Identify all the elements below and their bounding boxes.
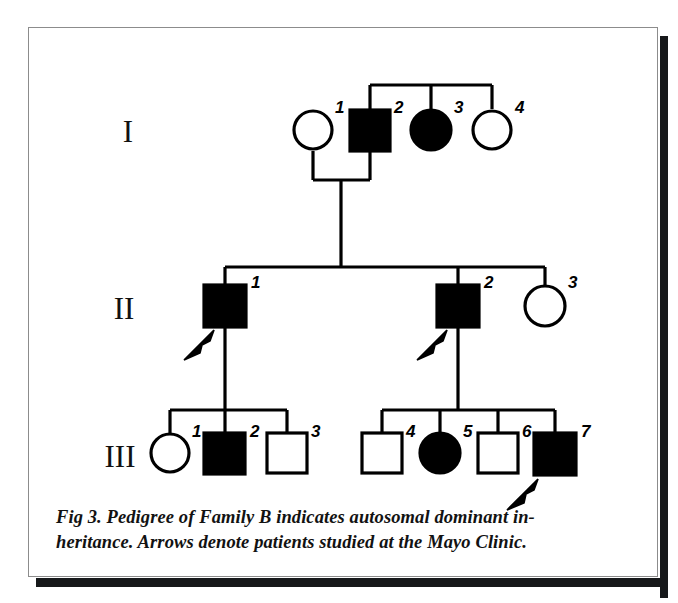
pedigree-diagram: I II III <box>28 27 658 577</box>
individual-number-II-2: 2 <box>483 273 494 292</box>
individual-number-III-4: 4 <box>405 422 416 441</box>
individual-symbol-I-3[interactable] <box>411 110 451 150</box>
generation-label-3: III <box>105 439 136 474</box>
individual-number-I-1: 1 <box>335 98 344 117</box>
figure-drop-shadow-bottom <box>36 578 668 587</box>
individual-number-III-7: 7 <box>581 422 592 441</box>
individual-number-III-1: 1 <box>192 422 201 441</box>
individual-number-I-3: 3 <box>454 98 464 117</box>
individual-number-I-4: 4 <box>514 98 525 117</box>
individual-symbol-I-1[interactable] <box>294 111 332 149</box>
individual-symbol-III-4[interactable] <box>362 433 402 473</box>
figure-caption: Fig 3. Pedigree of Family B indicates au… <box>56 505 626 555</box>
individual-number-I-2: 2 <box>393 98 404 117</box>
generation-label-1: I <box>123 114 133 149</box>
individual-symbol-III-7[interactable] <box>534 433 576 475</box>
generation-2-symbols: 1 2 3 <box>184 273 578 360</box>
individual-symbol-III-2[interactable] <box>204 433 245 474</box>
figure-drop-shadow-right <box>660 36 668 598</box>
generation-1-symbols: 1 2 3 4 <box>294 98 525 151</box>
individual-number-III-2: 2 <box>249 422 260 441</box>
individual-symbol-II-3[interactable] <box>525 286 565 326</box>
individual-symbol-III-5[interactable] <box>420 433 460 473</box>
individual-symbol-II-1[interactable] <box>204 285 246 327</box>
individual-number-III-3: 3 <box>311 422 321 441</box>
generation-3-symbols: 1 2 3 4 5 6 7 <box>151 422 592 510</box>
figure-root: I II III <box>0 0 678 603</box>
figure-caption-line-1: Fig 3. Pedigree of Family B indicates au… <box>56 505 626 530</box>
proband-arrow-icon-II-2 <box>417 330 447 360</box>
individual-number-II-3: 3 <box>568 273 578 292</box>
individual-symbol-III-3[interactable] <box>267 433 307 473</box>
proband-arrow-icon-II-1 <box>184 330 214 360</box>
individual-number-III-6: 6 <box>522 422 532 441</box>
individual-symbol-II-2[interactable] <box>437 285 479 327</box>
individual-symbol-III-6[interactable] <box>478 433 518 473</box>
individual-number-II-1: 1 <box>251 273 260 292</box>
individual-number-III-5: 5 <box>463 422 473 441</box>
individual-symbol-I-4[interactable] <box>473 111 511 149</box>
generation-label-2: II <box>114 291 135 326</box>
individual-symbol-I-2[interactable] <box>350 110 390 151</box>
figure-caption-line-2: heritance. Arrows denote patients studie… <box>56 530 626 555</box>
generation-label-column: I II III <box>105 114 136 474</box>
individual-symbol-III-1[interactable] <box>151 434 189 472</box>
